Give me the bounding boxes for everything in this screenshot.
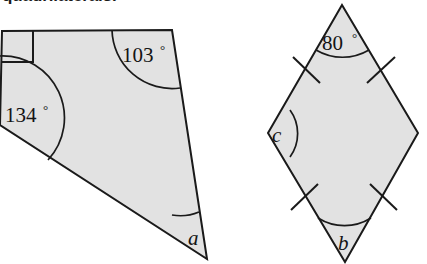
angle-label-134: 134 bbox=[5, 103, 37, 127]
right-rhombus-shape bbox=[268, 5, 418, 262]
left-quadrilateral-group: 103 ° 134 ° a bbox=[0, 30, 207, 259]
angle-label-b: b bbox=[338, 231, 349, 255]
angle-label-80: 80 bbox=[322, 31, 343, 55]
angle-label-103: 103 bbox=[122, 43, 154, 67]
angle-label-c: c bbox=[272, 123, 282, 147]
angle-label-a: a bbox=[188, 226, 199, 250]
angle-degree-symbol-134: ° bbox=[43, 102, 48, 117]
angle-degree-symbol-103: ° bbox=[160, 42, 165, 57]
right-rhombus-group: 80 ° c b bbox=[268, 5, 418, 262]
angle-degree-symbol-80: ° bbox=[352, 30, 357, 45]
figure-page: quadrilaterals. 103 ° 134 ° a bbox=[0, 0, 427, 264]
left-quadrilateral-shape bbox=[0, 30, 207, 259]
geometry-figures-canvas: 103 ° 134 ° a 80 ° c bbox=[0, 0, 427, 264]
